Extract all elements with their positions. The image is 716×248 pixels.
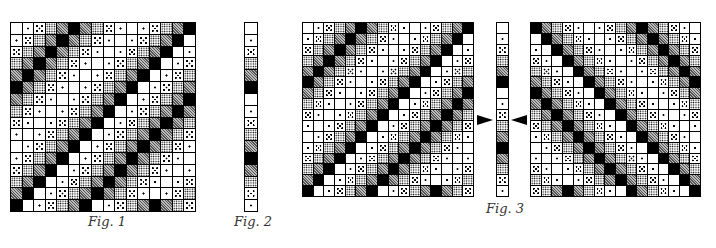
grid-cell: [574, 88, 584, 98]
grid-cell: [46, 177, 57, 188]
grid-cell: [335, 45, 345, 55]
grid-cell: [563, 77, 573, 87]
grid-cell: [11, 141, 22, 152]
grid-cell: [11, 118, 22, 129]
grid-cell: [115, 118, 126, 129]
grid-cell: [399, 77, 409, 87]
grid-cell: [69, 94, 80, 105]
grid-cell: [150, 141, 161, 152]
grid-cell: [552, 99, 562, 109]
grid-cell: [389, 132, 399, 142]
grid-cell: [463, 175, 473, 185]
grid-cell: [410, 110, 420, 120]
grid-cell: [161, 129, 172, 140]
grid-cell: [531, 132, 541, 142]
grid-cell: [184, 35, 195, 46]
grid-cell: [669, 67, 679, 77]
grid-cell: [399, 175, 409, 185]
grid-cell: [453, 121, 463, 131]
grid-cell: [690, 67, 700, 77]
grid-cell: [563, 99, 573, 109]
grid-cell: [34, 58, 45, 69]
grid-cell: [34, 188, 45, 199]
grid-cell: [605, 154, 615, 164]
grid-cell: [595, 164, 605, 174]
grid-cell: [552, 23, 562, 33]
grid-cell: [11, 153, 22, 164]
grid-cell: [463, 99, 473, 109]
grid-cell: [453, 99, 463, 109]
grid-cell: [637, 45, 647, 55]
grid-cell: [92, 47, 103, 58]
grid-cell: [378, 99, 388, 109]
grid-cell: [115, 200, 126, 211]
grid-cell: [421, 110, 431, 120]
grid-cell: [356, 121, 366, 131]
grid-cell: [356, 175, 366, 185]
grid-cell: [616, 186, 626, 196]
grid-cell: [150, 200, 161, 211]
grid-cell: [680, 164, 690, 174]
grid-cell: [173, 188, 184, 199]
grid-cell: [605, 132, 615, 142]
grid-cell: [399, 164, 409, 174]
grid-cell: [584, 121, 594, 131]
grid-cell: [34, 165, 45, 176]
grid-cell: [659, 67, 669, 77]
grid-cell: [57, 35, 68, 46]
grid-cell: [115, 94, 126, 105]
grid-cell: [378, 77, 388, 87]
grid-cell: [563, 45, 573, 55]
grid-cell: [80, 106, 91, 117]
grid-cell: [595, 110, 605, 120]
grid-cell: [127, 177, 138, 188]
grid-cell: [303, 99, 313, 109]
grid-cell: [531, 67, 541, 77]
grid-cell: [690, 175, 700, 185]
grid-cell: [69, 47, 80, 58]
grid-cell: [410, 143, 420, 153]
grid-cell: [637, 132, 647, 142]
grid-cell: [531, 34, 541, 44]
grid-cell: [104, 23, 115, 34]
grid-cell: [104, 129, 115, 140]
grid-cell: [442, 88, 452, 98]
grid-cell: [184, 70, 195, 81]
grid-cell: [150, 47, 161, 58]
grid-cell: [115, 177, 126, 188]
grid-cell: [431, 154, 441, 164]
grid-cell: [356, 23, 366, 33]
grid-cell: [637, 34, 647, 44]
grid-cell: [574, 121, 584, 131]
grid-cell: [690, 34, 700, 44]
grid-cell: [23, 58, 34, 69]
grid-cell: [442, 175, 452, 185]
grid-cell: [161, 58, 172, 69]
grid-cell: [584, 143, 594, 153]
grid-cell: [659, 77, 669, 87]
grid-cell: [563, 23, 573, 33]
grid-cell: [245, 94, 257, 105]
grid-cell: [421, 45, 431, 55]
grid-cell: [497, 143, 508, 153]
grid-cell: [23, 106, 34, 117]
grid-cell: [115, 23, 126, 34]
grid-cell: [34, 82, 45, 93]
grid-cell: [245, 200, 257, 211]
grid-cell: [399, 45, 409, 55]
grid-cell: [127, 106, 138, 117]
grid-cell: [173, 23, 184, 34]
grid-cell: [563, 143, 573, 153]
grid-cell: [497, 34, 508, 44]
grid-cell: [335, 121, 345, 131]
grid-cell: [245, 35, 257, 46]
grid-cell: [324, 45, 334, 55]
grid-cell: [574, 132, 584, 142]
grid-cell: [389, 154, 399, 164]
grid-cell: [627, 175, 637, 185]
grid-cell: [669, 175, 679, 185]
grid-cell: [669, 110, 679, 120]
grid-cell: [46, 153, 57, 164]
grid-cell: [542, 23, 552, 33]
grid-cell: [648, 23, 658, 33]
